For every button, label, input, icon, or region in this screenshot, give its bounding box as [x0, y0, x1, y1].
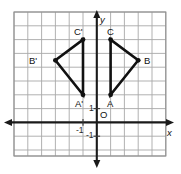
vertex-label-c: C — [107, 27, 114, 37]
tick-label-y-positive-one: 1 — [89, 104, 94, 113]
graph-canvas — [0, 0, 181, 174]
x-axis — [4, 119, 174, 126]
vertex-b-point — [136, 58, 141, 63]
vertex-b-prime-point — [53, 58, 58, 63]
vertex-label-b-prime: B' — [29, 56, 37, 66]
y-axis-label: y — [100, 14, 105, 25]
coordinate-plane-figure: C' C B' B A' A y x O 1 -1 -1 — [0, 0, 181, 174]
vertex-label-b: B — [144, 56, 150, 66]
vertex-c-point — [108, 37, 113, 42]
origin-label: O — [100, 110, 107, 120]
vertex-c-prime-point — [81, 37, 86, 42]
y-axis — [93, 10, 100, 168]
x-axis-label: x — [167, 127, 172, 138]
vertex-label-a-prime: A' — [75, 99, 83, 109]
tick-label-x-negative-one: -1 — [76, 126, 84, 135]
vertex-label-c-prime: C' — [74, 27, 83, 37]
vertex-label-a: A — [107, 99, 113, 109]
tick-label-y-negative-one: -1 — [86, 131, 94, 140]
vertex-a-point — [108, 92, 113, 97]
vertex-a-prime-point — [81, 92, 86, 97]
